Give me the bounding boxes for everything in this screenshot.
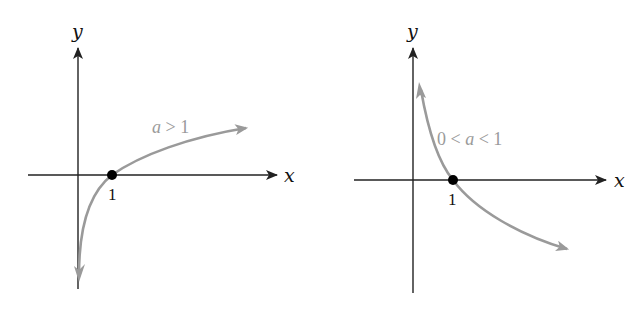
point-1-0 — [448, 175, 458, 185]
curve-label-a-greater-than-1: a > 1 — [152, 117, 189, 137]
panel-right-a-between-0-and-1: x y 1 0 < a < 1 — [354, 20, 625, 293]
x-axis-label: x — [284, 164, 295, 186]
log-graphs-diagram: x y 1 a > 1 x y 1 0 < a < 1 — [0, 0, 642, 320]
panel-left-a-greater-than-1: x y 1 a > 1 — [28, 20, 295, 289]
y-axis-label: y — [406, 20, 418, 42]
x-axis-label: x — [614, 169, 625, 191]
y-axis-label: y — [71, 20, 83, 42]
tick-label-1: 1 — [108, 185, 117, 204]
curve-label-a-between-0-and-1: 0 < a < 1 — [437, 129, 502, 149]
log-curve-increasing — [79, 128, 246, 275]
point-1-0 — [107, 170, 117, 180]
tick-label-1: 1 — [448, 190, 457, 209]
log-curve-decreasing — [421, 90, 567, 249]
